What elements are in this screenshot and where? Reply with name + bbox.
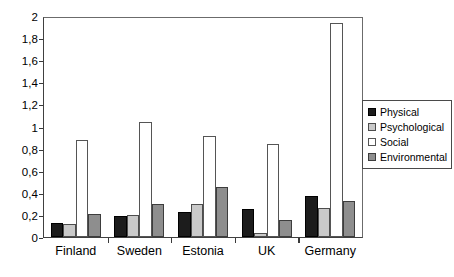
- bar-finland-social: [76, 140, 89, 237]
- y-axis-tick-label: 1,8: [2, 34, 38, 45]
- bar-sweden-social: [139, 122, 152, 237]
- bar-germany-physical: [305, 196, 318, 237]
- bar-sweden-environmental: [152, 204, 165, 237]
- legend-swatch-social-icon: [368, 138, 376, 146]
- bar-estonia-psychological: [191, 204, 204, 237]
- bar-uk-physical: [242, 209, 255, 237]
- y-axis-tick-label: 1: [2, 122, 38, 133]
- legend-label-social: Social: [380, 137, 409, 148]
- bar-finland-psychological: [63, 224, 76, 237]
- legend-swatch-environmental-icon: [368, 153, 376, 161]
- x-axis-label-estonia: Estonia: [171, 244, 235, 259]
- legend-label-environmental: Environmental: [380, 152, 447, 163]
- bar-uk-environmental: [279, 220, 292, 237]
- y-axis-tick-label: 0,2: [2, 210, 38, 221]
- bar-finland-physical: [51, 223, 64, 237]
- y-axis-tick-label: 0,6: [2, 166, 38, 177]
- legend-swatch-physical-icon: [368, 108, 376, 116]
- legend-label-psychological: Psychological: [380, 122, 444, 133]
- bar-group: [114, 17, 164, 237]
- chart-legend: Physical Psychological Social Environmen…: [362, 100, 452, 169]
- x-axis-tick-mark: [171, 238, 172, 243]
- y-axis-tick-label: 0,8: [2, 144, 38, 155]
- bar-germany-psychological: [318, 208, 331, 237]
- legend-item-social: Social: [368, 135, 447, 149]
- x-axis-label-sweden: Sweden: [108, 244, 172, 259]
- bar-sweden-psychological: [127, 215, 140, 237]
- x-axis-tick-mark: [108, 238, 109, 243]
- bar-group: [242, 17, 292, 237]
- y-axis-tick-label: 1,6: [2, 56, 38, 67]
- y-axis-tick-mark: [39, 238, 43, 239]
- bar-germany-social: [330, 23, 343, 237]
- x-axis-tick-mark: [298, 238, 299, 243]
- bar-sweden-physical: [114, 216, 127, 237]
- x-axis-label-finland: Finland: [44, 244, 108, 259]
- legend-label-physical: Physical: [380, 107, 419, 118]
- x-axis-label-germany: Germany: [298, 244, 362, 259]
- y-axis-tick-label: 0,4: [2, 188, 38, 199]
- y-axis-tick-labels: 00,20,40,60,811,21,41,61,82: [0, 0, 38, 277]
- bar-group: [178, 17, 228, 237]
- bar-chart: 00,20,40,60,811,21,41,61,82 FinlandSwede…: [0, 0, 454, 277]
- bar-germany-environmental: [343, 201, 356, 237]
- bars-layer: [44, 17, 362, 237]
- y-axis-tick-label: 1,4: [2, 78, 38, 89]
- bar-uk-psychological: [254, 233, 267, 237]
- bar-estonia-social: [203, 136, 216, 237]
- bar-uk-social: [267, 144, 280, 237]
- legend-swatch-psychological-icon: [368, 123, 376, 131]
- x-axis-label-uk: UK: [235, 244, 299, 259]
- bar-estonia-physical: [178, 212, 191, 237]
- x-axis-tick-mark: [235, 238, 236, 243]
- bar-estonia-environmental: [216, 187, 229, 237]
- bar-group: [305, 17, 355, 237]
- y-axis-tick-label: 1,2: [2, 100, 38, 111]
- y-axis-tick-label: 0: [2, 233, 38, 244]
- bar-group: [51, 17, 101, 237]
- y-axis-tick-label: 2: [2, 12, 38, 23]
- legend-item-environmental: Environmental: [368, 150, 447, 164]
- legend-item-psychological: Psychological: [368, 120, 447, 134]
- bar-finland-environmental: [88, 214, 101, 237]
- legend-item-physical: Physical: [368, 105, 447, 119]
